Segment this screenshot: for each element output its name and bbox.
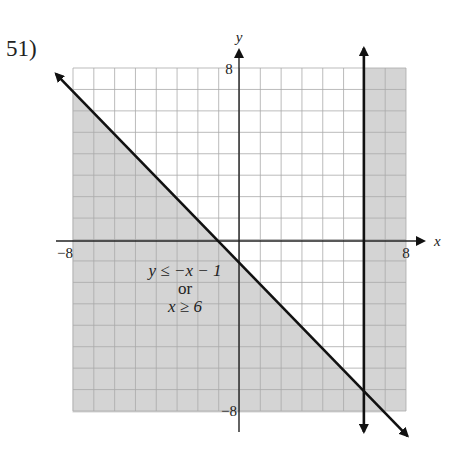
annotation-line-1: y ≤ −x − 1 (130, 262, 240, 280)
x-axis-label: x (433, 233, 441, 249)
x-tick-label-max: 8 (402, 245, 410, 261)
y-tick-label-max: 8 (225, 61, 233, 77)
inequality-annotation: y ≤ −x − 1 or x ≥ 6 (130, 262, 240, 316)
y-tick-label-min: −8 (221, 403, 237, 419)
annotation-line-3: x ≥ 6 (130, 298, 240, 316)
inequality-graph: −888−8xy (0, 0, 472, 475)
x-tick-label-min: −8 (57, 245, 73, 261)
annotation-line-2: or (130, 280, 240, 298)
y-axis-label: y (234, 29, 243, 45)
